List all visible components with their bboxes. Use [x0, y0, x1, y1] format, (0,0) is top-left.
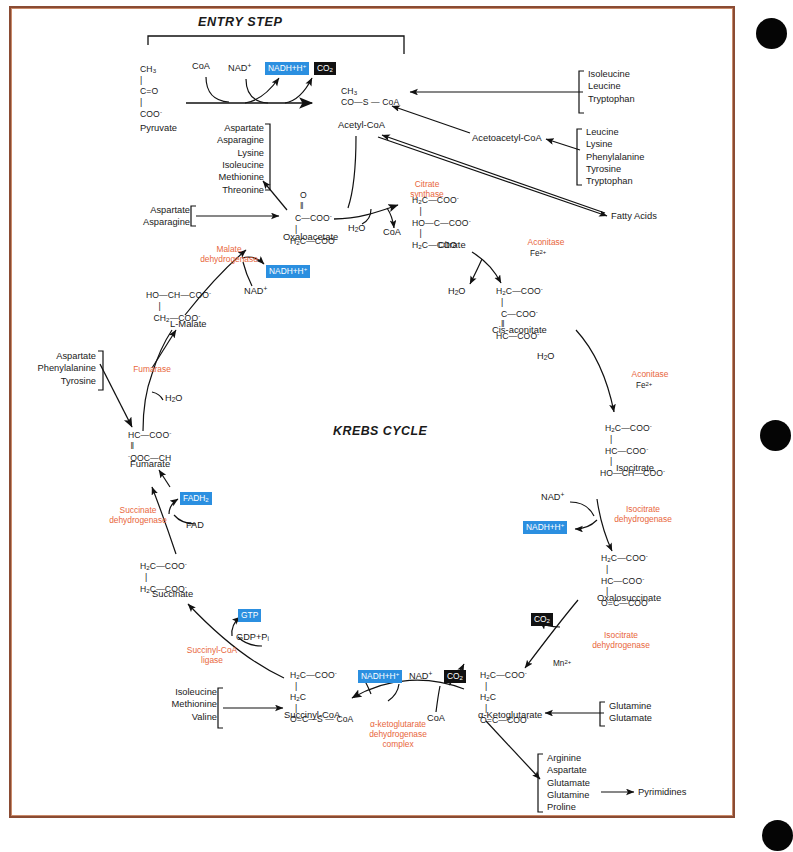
aa-list-from-oxaloacetate: Aspartate Asparagine Lysine Isoleucine M… [180, 122, 264, 196]
aa-list-from-alpha-ketoglutarate: Arginine Aspartate Glutamate Glutamine P… [547, 752, 590, 814]
enzyme-isocitrate-dehydrogenase-1: Isocitrate dehydrogenase [600, 504, 686, 524]
acetoacetyl-coa-label: Acetoacetyl-CoA [472, 133, 542, 143]
aa-list-to-fumarate: Aspartate Phenylalanine Tyrosine [26, 350, 96, 387]
acetyl-coa-label: Acetyl-CoA [338, 120, 385, 130]
aa-list-to-succinyl-coa: Isoleucine Methionine Valine [155, 686, 217, 723]
aconitase-2-cofactor: Fe2+ [636, 381, 652, 391]
pyruvate-label: Pyruvate [140, 123, 177, 133]
water-fumarase-label: H2O [165, 394, 182, 404]
isocitrate-label: Isocitrate [616, 463, 654, 473]
water-aconitase-2-label: H2O [537, 352, 554, 362]
co2-oxalosuccinate-box: CO2 [531, 613, 553, 626]
enzyme-succinate-dehydrogenase: Succinate dehydrogenase [96, 505, 180, 525]
enzyme-alpha-kg-dehydrogenase: α-ketoglutarate dehydrogenase complex [350, 719, 446, 749]
nad-isocitrate-label: NAD+ [541, 491, 564, 503]
acetyl-coa-structure: CH3 CO—S — CoA [341, 86, 399, 108]
alpha-ketoglutarate-label: α-Ketoglutarate [478, 710, 542, 720]
gtp-box: GTP [238, 609, 261, 622]
fad-label: FAD [186, 521, 204, 531]
enzyme-succinyl-coa-ligase: Succinyl-CoA ligase [170, 645, 254, 665]
fadh2-box: FADH2 [180, 492, 212, 505]
fumarate-label: Fumarate [130, 459, 170, 469]
co2-entry-box: CO2 [314, 62, 336, 75]
enzyme-malate-dehydrogenase: Malate dehydrogenase [186, 244, 272, 264]
nad-malate-label: NAD+ [244, 285, 267, 297]
enzyme-aconitase-2: Aconitase [620, 369, 680, 379]
oxalosuccinate-label: Oxalosuccinate [597, 593, 661, 603]
nad-akg-label: NAD+ [409, 670, 432, 682]
succinate-label: Succinate [152, 589, 193, 599]
nadh-isocitrate-box: NADH+H+ [523, 521, 567, 534]
aa-list-to-oxaloacetate: Aspartate Asparagine [124, 204, 190, 229]
gdp-pi-label: GDP+Pi [236, 633, 269, 643]
entry-step-title: ENTRY STEP [198, 16, 283, 30]
fatty-acids-label: Fatty Acids [611, 211, 657, 221]
water-aconitase-1-label: H2O [448, 287, 465, 297]
krebs-cycle-title: KREBS CYCLE [333, 425, 427, 438]
citrate-label: Citrate [438, 240, 466, 250]
aa-list-to-alpha-ketoglutarate: Glutamine Glutamate [609, 700, 652, 725]
pyruvate-structure: CH3 | C=O | COO- [140, 64, 162, 120]
l-malate-label: L-Malate [170, 319, 206, 329]
aa-list-to-acetyl-coa: Isoleucine Leucine Tryptophan [588, 68, 635, 105]
enzyme-fumarase: Fumarase [123, 364, 181, 374]
cis-aconitate-label: Cis-aconitate [492, 325, 547, 335]
oxaloacetate-label: Oxaloacetate [283, 232, 338, 242]
enzyme-aconitase-1: Aconitase [516, 237, 576, 247]
aconitase-1-cofactor: Fe2+ [530, 249, 546, 259]
enzyme-isocitrate-dehydrogenase-2: Isocitrate dehydrogenase [578, 630, 664, 650]
nadh-akg-box: NADH+H+ [358, 670, 402, 683]
nad-entry-label: NAD+ [228, 62, 251, 74]
coa-citrate-label: CoA [383, 228, 401, 238]
water-citrate-label: H2O [348, 224, 365, 234]
pyrimidines-label: Pyrimidines [638, 787, 686, 797]
nadh-entry-box: NADH+H+ [265, 62, 309, 75]
aa-list-to-acetoacetyl-coa: Leucine Lysine Phenylalanine Tyrosine Tr… [586, 126, 644, 188]
succinyl-coa-label: Succinyl-CoA [284, 710, 340, 720]
coa-entry-label: CoA [192, 62, 210, 72]
nadh-malate-box: NADH+H+ [266, 265, 310, 278]
co2-akg-box: CO2 [444, 670, 466, 683]
mn-cofactor-label: Mn2+ [553, 659, 571, 669]
